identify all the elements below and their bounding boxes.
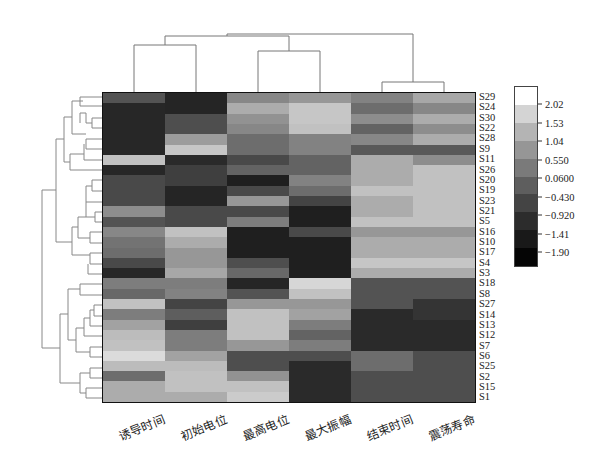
- heatmap-cell: [165, 134, 227, 144]
- heatmap-cell: [103, 268, 165, 278]
- heatmap-cell: [165, 145, 227, 155]
- row-label: S1: [479, 392, 495, 402]
- heatmap-cell: [289, 299, 351, 309]
- heatmap-cell: [413, 206, 475, 216]
- heatmap-cell: [227, 371, 289, 381]
- heatmap-cell: [289, 309, 351, 319]
- heatmap-cell: [289, 340, 351, 350]
- heatmap-cell: [413, 330, 475, 340]
- heatmap-cell: [351, 268, 413, 278]
- heatmap-cell: [165, 268, 227, 278]
- heatmap-cell: [165, 237, 227, 247]
- heatmap-cell: [103, 114, 165, 124]
- heatmap-cell: [351, 392, 413, 402]
- heatmap-cell: [413, 103, 475, 113]
- legend-tick: 1.04: [538, 136, 563, 147]
- heatmap-cell: [103, 309, 165, 319]
- legend-tick: −0.430: [538, 191, 575, 202]
- heatmap-cell: [351, 361, 413, 371]
- heatmap-cell: [165, 361, 227, 371]
- heatmap-cell: [351, 248, 413, 258]
- heatmap-cell: [289, 114, 351, 124]
- heatmap-cell: [413, 258, 475, 268]
- heatmap-cell: [289, 227, 351, 237]
- legend-tick: 2.02: [538, 99, 563, 110]
- heatmap-cell: [103, 145, 165, 155]
- heatmap-cell: [351, 227, 413, 237]
- heatmap-cell: [227, 340, 289, 350]
- heatmap-cell: [289, 175, 351, 185]
- heatmap-cell: [103, 361, 165, 371]
- heatmap-cell: [289, 371, 351, 381]
- heatmap-cell: [289, 381, 351, 391]
- legend-band: [515, 212, 537, 230]
- legend-band: [515, 230, 537, 248]
- heatmap-cell: [165, 258, 227, 268]
- heatmap-cell: [103, 248, 165, 258]
- heatmap-cell: [351, 145, 413, 155]
- heatmap-cell: [103, 155, 165, 165]
- heatmap-cell: [351, 299, 413, 309]
- heatmap-cell: [103, 371, 165, 381]
- heatmap-cell: [165, 217, 227, 227]
- heatmap-cell: [103, 392, 165, 402]
- heatmap-cell: [351, 134, 413, 144]
- heatmap-cell: [351, 289, 413, 299]
- heatmap-cell: [413, 175, 475, 185]
- column-label: 初始电位: [178, 410, 229, 445]
- heatmap-cell: [103, 258, 165, 268]
- heatmap-cell: [227, 165, 289, 175]
- heatmap-cell: [165, 206, 227, 216]
- heatmap-cell: [413, 124, 475, 134]
- heatmap-cell: [227, 381, 289, 391]
- heatmap-cell: [103, 103, 165, 113]
- heatmap-cell: [351, 206, 413, 216]
- heatmap-cell: [165, 330, 227, 340]
- heatmap-cell: [227, 309, 289, 319]
- heatmap-cell: [227, 155, 289, 165]
- heatmap-cell: [413, 186, 475, 196]
- heatmap-cell: [103, 278, 165, 288]
- column-label: 结束时间: [364, 410, 415, 445]
- heatmap-cell: [289, 392, 351, 402]
- heatmap-cell: [103, 134, 165, 144]
- heatmap-cell: [165, 248, 227, 258]
- heatmap-cell: [103, 227, 165, 237]
- legend-tick: 1.53: [538, 117, 563, 128]
- heatmap-cell: [289, 165, 351, 175]
- heatmap-cell: [103, 299, 165, 309]
- heatmap-cell: [351, 93, 413, 103]
- heatmap-cell: [165, 103, 227, 113]
- heatmap-cell: [103, 175, 165, 185]
- heatmap-cell: [351, 196, 413, 206]
- heatmap-cell: [289, 217, 351, 227]
- heatmap-cell: [413, 248, 475, 258]
- heatmap-cell: [227, 361, 289, 371]
- heatmap-cell: [413, 309, 475, 319]
- heatmap-cell: [413, 155, 475, 165]
- legend-band: [515, 248, 537, 266]
- heatmap-cell: [413, 320, 475, 330]
- legend-band: [515, 177, 537, 195]
- heatmap-cell: [351, 124, 413, 134]
- heatmap-cell: [103, 330, 165, 340]
- heatmap-cell: [165, 124, 227, 134]
- heatmap-cell: [289, 278, 351, 288]
- heatmap-cell: [103, 217, 165, 227]
- heatmap-cell: [289, 186, 351, 196]
- heatmap-cell: [227, 248, 289, 258]
- heatmap-cell: [227, 206, 289, 216]
- heatmap-cell: [103, 93, 165, 103]
- heatmap-cell: [165, 155, 227, 165]
- row-dendrogram: [20, 92, 102, 404]
- heatmap-cell: [289, 155, 351, 165]
- heatmap-cell: [227, 175, 289, 185]
- heatmap-cell: [165, 309, 227, 319]
- legend-tick: −1.41: [538, 228, 569, 239]
- legend-band: [515, 105, 537, 123]
- heatmap-cell: [289, 206, 351, 216]
- heatmap-cell: [103, 165, 165, 175]
- column-labels: 诱导时间 初始电位 最高电位 最大振幅 结束时间 震荡寿命: [102, 408, 476, 458]
- column-dendrogram: [100, 28, 480, 92]
- heatmap-cell: [165, 392, 227, 402]
